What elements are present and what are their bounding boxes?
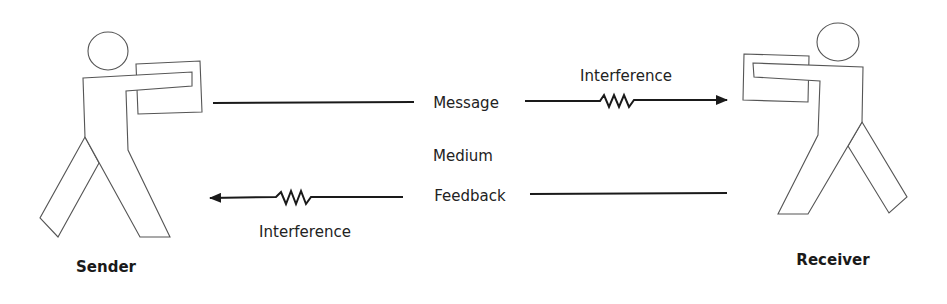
message-interference-label: Interference [580,67,672,85]
sender-figure-icon [40,32,202,237]
receiver-back-leg [848,122,907,213]
medium-label: Medium [433,147,493,165]
receiver-label: Receiver [796,251,869,269]
feedback-line-right [530,193,727,194]
message-line-right-with-interference [525,95,727,107]
receiver-figure-icon [743,23,907,214]
feedback-interference-label: Interference [259,223,351,241]
receiver-head [817,23,859,61]
feedback-label: Feedback [434,187,505,205]
sender-label: Sender [76,258,136,276]
message-line-left [213,102,414,103]
feedback-line-left-with-interference [210,191,403,204]
communication-diagram: Message Interference Medium Feedback Int… [0,0,947,304]
message-label: Message [433,94,499,112]
sender-head [88,32,128,70]
sender-back-leg [40,137,99,237]
